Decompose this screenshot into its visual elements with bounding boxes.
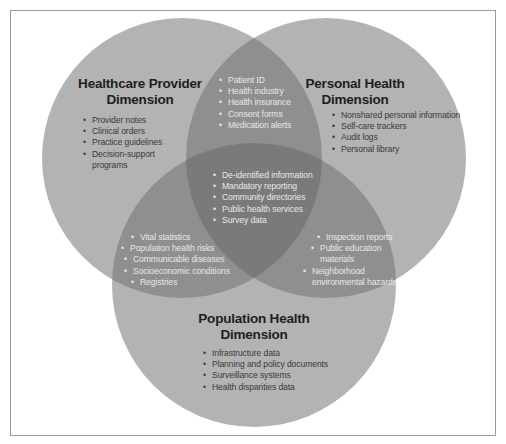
list-item: Public education [310, 243, 397, 254]
all-three-list: De-identified information Mandatory repo… [212, 170, 313, 226]
personal-health-list: Nonshared personal information Self-care… [331, 110, 460, 155]
list-item: De-identified information [212, 170, 313, 181]
list-item: Nonshared personal information [331, 110, 460, 121]
list-item: Socioeconomic conditions [123, 266, 230, 277]
list-item: Audit logs [331, 132, 460, 143]
title-line: Dimension [184, 327, 324, 343]
list-item: Planning and policy documents [202, 359, 328, 370]
list-item: Mandatory reporting [212, 181, 313, 192]
list-item: Patient ID [218, 75, 291, 86]
population-health-list: Infrastructure data Planning and policy … [202, 348, 328, 393]
list-item: Health disparities data [202, 382, 328, 393]
list-item: Decision-support [82, 149, 162, 160]
list-item-continuation: programs [82, 160, 162, 171]
list-item: Clinical orders [82, 126, 162, 137]
title-line: Population Health [184, 311, 324, 327]
list-item-continuation: materials [310, 254, 397, 265]
list-item: Communicable diseases [123, 254, 230, 265]
list-item: Provider notes [82, 115, 162, 126]
personal-health-title: Personal Health Dimension [296, 76, 414, 108]
title-line: Healthcare Provider [60, 76, 220, 92]
list-item: Health industry [218, 86, 291, 97]
list-item: Self-care trackers [331, 121, 460, 132]
healthcare-provider-list: Provider notes Clinical orders Practice … [82, 115, 162, 171]
title-line: Personal Health [296, 76, 414, 92]
list-item: Practice guidelines [82, 137, 162, 148]
personal-population-list: Inspection reports Public education mate… [308, 232, 397, 288]
list-item: Medication alerts [218, 120, 291, 131]
title-line: Dimension [60, 92, 220, 108]
population-health-title: Population Health Dimension [184, 311, 324, 343]
list-item-continuation: environmental hazards [302, 277, 397, 288]
provider-population-list: Vital statistics Population health risks… [120, 232, 230, 288]
list-item: Population health risks [120, 243, 230, 254]
list-item: Consent forms [218, 109, 291, 120]
list-item: Registries [130, 277, 230, 288]
provider-personal-list: Patient ID Health industry Health insura… [218, 75, 291, 131]
list-item: Surveillance systems [202, 370, 328, 381]
list-item: Public health services [212, 204, 313, 215]
list-item: Personal library [331, 144, 460, 155]
list-item: Inspection reports [316, 232, 397, 243]
healthcare-provider-title: Healthcare Provider Dimension [60, 76, 220, 108]
list-item: Infrastructure data [202, 348, 328, 359]
list-item: Survey data [212, 215, 313, 226]
list-item: Neighborhood [302, 266, 397, 277]
list-item: Community directories [212, 192, 313, 203]
title-line: Dimension [296, 92, 414, 108]
list-item: Health insurance [218, 97, 291, 108]
list-item: Vital statistics [130, 232, 230, 243]
